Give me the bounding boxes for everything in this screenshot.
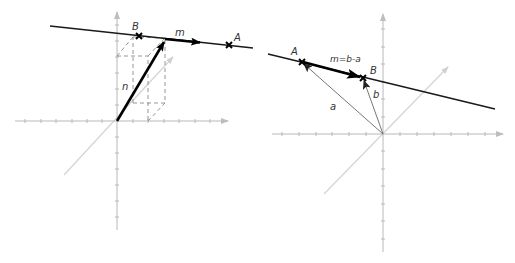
label-a-right: a (330, 101, 336, 112)
left-panel: B m A n (15, 12, 253, 230)
vector-line-diagram: B m A n (0, 0, 515, 263)
label-A-right: A (290, 46, 298, 57)
label-m-right: m=b-a (330, 54, 361, 64)
label-A-left: A (233, 32, 241, 43)
label-B-left: B (132, 21, 139, 32)
label-m-left: m (175, 27, 185, 38)
label-b-right: b (373, 89, 379, 100)
left-line (50, 26, 253, 48)
label-n-left: n (122, 81, 128, 92)
right-panel: A m=b-a B a b (268, 14, 503, 252)
label-B-right: B (370, 65, 377, 76)
right-diagonal-axis (324, 67, 448, 194)
vector-m-right (303, 62, 360, 77)
vector-m (165, 39, 200, 43)
